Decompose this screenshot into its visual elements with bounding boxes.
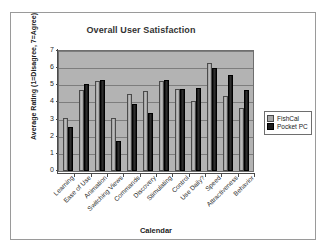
x-tick-mark — [221, 174, 222, 177]
bar-group — [92, 51, 108, 171]
y-tick-label: 5 — [42, 80, 54, 87]
bar-group — [76, 51, 92, 171]
bar — [164, 80, 169, 171]
x-tick-mark — [172, 174, 173, 177]
chart-legend: FishCalPocket PC — [264, 111, 312, 135]
bar-group — [60, 51, 76, 171]
bar-group — [140, 51, 156, 171]
plot-area — [58, 50, 254, 172]
x-tick-mark — [238, 174, 239, 177]
x-tick-mark — [205, 174, 206, 177]
legend-label: Pocket PC — [277, 123, 308, 130]
legend-swatch-icon — [267, 115, 274, 122]
bar — [84, 84, 89, 171]
bar-group — [124, 51, 140, 171]
x-tick-mark — [107, 174, 108, 177]
y-tick-label: 2 — [42, 132, 54, 139]
y-axis-title: Average Rating (1=Disagree, 7=Agree) — [30, 12, 37, 142]
bar — [116, 141, 121, 171]
bar — [100, 80, 105, 171]
legend-label: FishCal — [277, 115, 299, 122]
chart-title: Overall User Satisfaction — [11, 25, 271, 35]
bar-group — [220, 51, 236, 171]
y-axis-ticks: 01234567 — [39, 50, 54, 172]
x-tick-mark — [123, 174, 124, 177]
y-tick-label: 4 — [42, 97, 54, 104]
bar — [244, 90, 249, 171]
y-tick-label: 1 — [42, 149, 54, 156]
y-tick-label: 0 — [42, 166, 54, 173]
x-tick-mark — [254, 174, 255, 177]
bar — [148, 113, 153, 171]
x-axis-labels: LearningEase of UseAnimationSwitching Vi… — [58, 174, 254, 224]
bar-group — [204, 51, 220, 171]
x-tick-mark — [91, 174, 92, 177]
x-axis-title: Calendar — [58, 226, 254, 235]
legend-item: Pocket PC — [267, 123, 308, 130]
bar — [68, 127, 73, 171]
legend-swatch-icon — [267, 123, 274, 130]
bar — [180, 89, 185, 171]
bar-group — [236, 51, 252, 171]
x-tick-mark — [140, 174, 141, 177]
chart-frame: Overall User Satisfaction Average Rating… — [10, 12, 316, 240]
bar-group — [108, 51, 124, 171]
y-tick-label: 3 — [42, 115, 54, 122]
y-tick-label: 7 — [42, 46, 54, 53]
bar — [212, 68, 217, 171]
x-tick-mark — [74, 174, 75, 177]
y-tick-label: 6 — [42, 63, 54, 70]
bar — [196, 88, 201, 171]
bar-series-container — [59, 51, 253, 171]
bar-group — [172, 51, 188, 171]
bar — [132, 104, 137, 171]
bar-group — [188, 51, 204, 171]
x-tick-mark — [189, 174, 190, 177]
bar-group — [156, 51, 172, 171]
legend-item: FishCal — [267, 115, 308, 122]
bar — [228, 75, 233, 171]
